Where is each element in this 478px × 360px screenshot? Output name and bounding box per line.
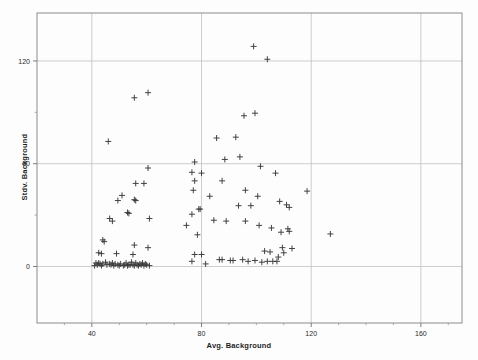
data-point-marker (248, 203, 254, 209)
data-point-marker (242, 187, 248, 193)
data-point-marker (241, 113, 247, 119)
data-point-marker (242, 218, 248, 224)
y-tick-label: 0 (26, 263, 30, 270)
data-point-marker (199, 251, 205, 257)
data-point-marker (114, 251, 120, 257)
axis-ticks (33, 61, 448, 327)
data-point-marker (275, 254, 281, 260)
y-axis-title-wrapper: Stdv. Background (13, 97, 31, 237)
data-point-marker (194, 232, 200, 238)
data-point-marker (211, 217, 217, 223)
data-point-marker (196, 206, 202, 212)
data-point-marker (219, 257, 225, 263)
data-point-marker (119, 192, 125, 198)
data-point-marker (98, 251, 104, 257)
y-axis-title: Stdv. Background (20, 134, 29, 201)
data-point-marker (189, 211, 195, 217)
data-point-marker (190, 187, 196, 193)
x-tick-label: 80 (198, 330, 206, 337)
data-point-marker (126, 210, 132, 216)
data-point-marker (264, 258, 270, 264)
data-point-marker (115, 262, 121, 268)
y-tick-label: 120 (18, 58, 30, 65)
data-point-marker (262, 248, 268, 254)
data-point-marker (289, 245, 295, 251)
data-point-marker (199, 170, 205, 176)
data-point-marker (251, 43, 257, 49)
data-point-marker (145, 245, 151, 251)
x-axis-title: Avg. Background (0, 341, 478, 350)
data-point-marker (203, 261, 209, 267)
data-point-marker (327, 231, 333, 237)
data-point-marker (274, 258, 280, 264)
data-point-marker (133, 198, 139, 204)
data-point-marker (267, 249, 273, 255)
x-tick-label: 120 (305, 330, 317, 337)
data-points (92, 43, 334, 268)
data-point-marker (259, 259, 265, 265)
data-point-marker (252, 257, 258, 263)
data-point-marker (252, 110, 258, 116)
plot-frame-rect (37, 13, 462, 323)
data-point-marker (96, 250, 102, 256)
data-point-marker (189, 258, 195, 264)
data-point-marker (141, 180, 147, 186)
data-point-marker (223, 218, 229, 224)
data-point-marker (131, 95, 137, 101)
data-point-marker (130, 251, 136, 257)
data-point-marker (245, 258, 251, 264)
plot-frame (37, 13, 462, 323)
data-point-marker (189, 169, 195, 175)
scatter-plot-figure: 4080120160060120 Stdv. Background Avg. B… (0, 0, 478, 360)
data-point-marker (115, 198, 121, 204)
data-point-marker (268, 225, 274, 231)
data-point-marker (240, 257, 246, 263)
data-point-marker (131, 242, 137, 248)
data-point-marker (279, 245, 285, 251)
data-point-marker (145, 165, 151, 171)
data-point-marker (146, 216, 152, 222)
data-point-marker (255, 193, 261, 199)
data-point-marker (264, 56, 270, 62)
data-point-marker (105, 138, 111, 144)
data-point-marker (277, 198, 283, 204)
grid-lines (37, 13, 462, 323)
data-point-marker (192, 251, 198, 257)
data-point-marker (124, 210, 130, 216)
axis-tick-labels: 4080120160060120 (18, 58, 427, 337)
data-point-marker (257, 163, 263, 169)
data-point-marker (273, 170, 279, 176)
data-point-marker (207, 193, 213, 199)
x-tick-label: 40 (88, 330, 96, 337)
data-point-marker (222, 156, 228, 162)
data-point-marker (278, 229, 284, 235)
data-point-marker (304, 188, 310, 194)
plot-canvas: 4080120160060120 (0, 0, 478, 360)
data-point-marker (183, 222, 189, 228)
data-point-marker (281, 250, 287, 256)
data-point-marker (237, 154, 243, 160)
data-point-marker (233, 134, 239, 140)
data-point-marker (256, 222, 262, 228)
data-point-marker (192, 159, 198, 165)
data-point-marker (214, 135, 220, 141)
data-point-marker (219, 178, 225, 184)
data-point-marker (230, 257, 236, 263)
data-point-marker (236, 203, 242, 209)
data-point-marker (192, 178, 198, 184)
data-point-marker (145, 90, 151, 96)
data-point-marker (133, 180, 139, 186)
x-tick-label: 160 (415, 330, 427, 337)
data-point-marker (131, 197, 137, 203)
